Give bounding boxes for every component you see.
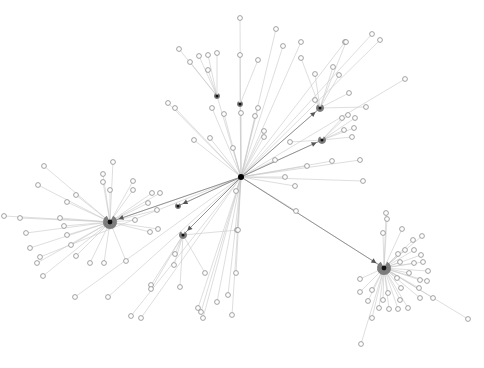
leaf-node[interactable] xyxy=(425,279,430,284)
leaf-node[interactable] xyxy=(253,114,258,119)
leaf-node[interactable] xyxy=(199,310,204,315)
leaf-node[interactable] xyxy=(230,313,235,318)
leaf-node[interactable] xyxy=(35,261,40,266)
leaf-node[interactable] xyxy=(288,140,293,145)
leaf-node[interactable] xyxy=(283,175,288,180)
leaf-node[interactable] xyxy=(236,228,241,233)
leaf-node[interactable] xyxy=(411,238,416,243)
leaf-node[interactable] xyxy=(197,54,202,59)
leaf-node[interactable] xyxy=(36,183,41,188)
leaf-node[interactable] xyxy=(399,286,404,291)
leaf-node[interactable] xyxy=(206,68,211,73)
leaf-node[interactable] xyxy=(226,293,231,298)
leaf-node[interactable] xyxy=(149,287,154,292)
leaf-node[interactable] xyxy=(178,285,183,290)
leaf-node[interactable] xyxy=(131,188,136,193)
leaf-node[interactable] xyxy=(73,295,78,300)
leaf-node[interactable] xyxy=(172,263,177,268)
leaf-node[interactable] xyxy=(426,269,431,274)
leaf-node[interactable] xyxy=(340,116,345,121)
leaf-node[interactable] xyxy=(330,159,335,164)
leaf-node[interactable] xyxy=(108,188,113,193)
leaf-node[interactable] xyxy=(358,277,363,282)
leaf-node[interactable] xyxy=(256,58,261,63)
leaf-node[interactable] xyxy=(370,32,375,37)
leaf-node[interactable] xyxy=(396,252,401,257)
leaf-node[interactable] xyxy=(400,227,405,232)
leaf-node[interactable] xyxy=(418,278,423,283)
leaf-node[interactable] xyxy=(210,106,215,111)
leaf-node[interactable] xyxy=(139,316,144,321)
leaf-node[interactable] xyxy=(166,101,171,106)
leaf-node[interactable] xyxy=(403,77,408,82)
leaf-node[interactable] xyxy=(150,191,155,196)
leaf-node[interactable] xyxy=(273,158,278,163)
leaf-node[interactable] xyxy=(208,136,213,141)
leaf-node[interactable] xyxy=(238,16,243,21)
leaf-node[interactable] xyxy=(293,184,298,189)
leaf-node[interactable] xyxy=(281,44,286,49)
leaf-node[interactable] xyxy=(313,98,318,103)
leaf-node[interactable] xyxy=(188,60,193,65)
leaf-node[interactable] xyxy=(106,295,111,300)
leaf-node[interactable] xyxy=(215,51,220,56)
leaf-node[interactable] xyxy=(386,291,391,296)
leaf-node[interactable] xyxy=(158,191,163,196)
leaf-node[interactable] xyxy=(337,73,342,78)
leaf-node[interactable] xyxy=(42,164,47,169)
leaf-node[interactable] xyxy=(331,65,336,70)
leaf-node[interactable] xyxy=(173,106,178,111)
leaf-node[interactable] xyxy=(350,135,355,140)
leaf-node[interactable] xyxy=(377,306,382,311)
leaf-node[interactable] xyxy=(203,271,208,276)
leaf-node[interactable] xyxy=(156,227,161,232)
leaf-node[interactable] xyxy=(74,193,79,198)
leaf-node[interactable] xyxy=(364,105,369,110)
leaf-node[interactable] xyxy=(466,317,471,322)
leaf-node[interactable] xyxy=(2,214,7,219)
leaf-node[interactable] xyxy=(155,208,160,213)
leaf-node[interactable] xyxy=(24,231,29,236)
leaf-node[interactable] xyxy=(396,307,401,312)
leaf-node[interactable] xyxy=(262,129,267,134)
leaf-node[interactable] xyxy=(359,342,364,347)
leaf-node[interactable] xyxy=(148,230,153,235)
leaf-node[interactable] xyxy=(173,252,178,257)
leaf-node[interactable] xyxy=(342,128,347,133)
leaf-node[interactable] xyxy=(256,106,261,111)
leaf-node[interactable] xyxy=(346,113,351,118)
leaf-node[interactable] xyxy=(366,299,371,304)
leaf-node[interactable] xyxy=(274,27,279,32)
leaf-node[interactable] xyxy=(65,233,70,238)
leaf-node[interactable] xyxy=(420,234,425,239)
leaf-node[interactable] xyxy=(28,246,33,251)
leaf-node[interactable] xyxy=(146,201,151,206)
leaf-node[interactable] xyxy=(111,160,116,165)
leaf-node[interactable] xyxy=(358,158,363,163)
leaf-node[interactable] xyxy=(398,298,403,303)
leaf-node[interactable] xyxy=(385,217,390,222)
leaf-node[interactable] xyxy=(38,255,43,260)
leaf-node[interactable] xyxy=(419,253,424,258)
leaf-node[interactable] xyxy=(353,116,358,121)
leaf-node[interactable] xyxy=(65,200,70,205)
leaf-node[interactable] xyxy=(398,260,403,265)
leaf-node[interactable] xyxy=(299,56,304,61)
leaf-node[interactable] xyxy=(421,260,426,265)
leaf-node[interactable] xyxy=(417,286,422,291)
leaf-node[interactable] xyxy=(74,254,79,259)
leaf-node[interactable] xyxy=(58,216,63,221)
leaf-node[interactable] xyxy=(381,298,386,303)
leaf-node[interactable] xyxy=(101,180,106,185)
leaf-node[interactable] xyxy=(431,296,436,301)
leaf-node[interactable] xyxy=(381,231,386,236)
leaf-node[interactable] xyxy=(412,261,417,266)
leaf-node[interactable] xyxy=(238,53,243,58)
leaf-node[interactable] xyxy=(407,271,412,276)
leaf-node[interactable] xyxy=(313,72,318,77)
leaf-node[interactable] xyxy=(129,314,134,319)
leaf-node[interactable] xyxy=(192,138,197,143)
leaf-node[interactable] xyxy=(387,307,392,312)
leaf-node[interactable] xyxy=(62,224,67,229)
leaf-node[interactable] xyxy=(124,259,129,264)
